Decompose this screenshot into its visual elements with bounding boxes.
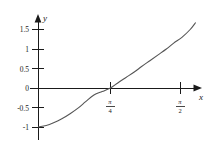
x-tick-denominator: 2 <box>178 107 181 114</box>
y-ticks-group: 1.5 1 0.5 0 -0.5 -1 <box>17 25 44 132</box>
chart-canvas: y x 1.5 1 0.5 0 -0.5 -1 π <box>0 0 219 148</box>
x-tick-numerator: π <box>178 98 182 105</box>
x-axis-arrow-icon <box>194 85 203 92</box>
x-tick-numerator: π <box>108 98 112 105</box>
x-tick-denominator: 4 <box>108 107 112 114</box>
x-axis-group: x <box>30 85 203 102</box>
chart-figure: y x 1.5 1 0.5 0 -0.5 -1 π <box>0 0 219 148</box>
y-axis-group: y <box>35 13 47 140</box>
y-axis-arrow-icon <box>35 14 42 23</box>
y-tick-label: 0 <box>25 84 29 93</box>
y-axis-label: y <box>42 13 47 23</box>
x-ticks-group: π 4 π 2 <box>106 82 185 114</box>
y-tick-label: 1.5 <box>20 25 30 34</box>
y-tick-label: -1 <box>23 123 29 132</box>
y-tick-label: -0.5 <box>17 104 29 113</box>
y-tick-label: 1 <box>25 45 29 54</box>
x-axis-label: x <box>198 92 203 102</box>
y-tick-label: 0.5 <box>20 65 30 74</box>
data-curve <box>38 22 196 127</box>
